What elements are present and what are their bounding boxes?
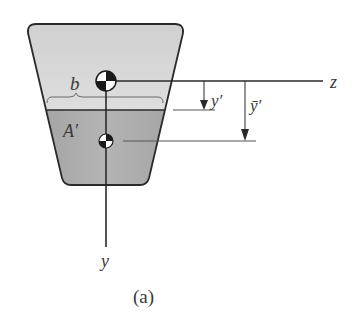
area-centroid-icon — [99, 134, 113, 148]
y-axis-label: y — [99, 251, 109, 271]
cross-section-shape — [20, 20, 190, 190]
area-a-prime-region — [20, 110, 190, 190]
y-prime-arrowhead-icon — [200, 100, 208, 110]
y-prime-label: y′ — [209, 91, 223, 110]
partial-area-label: A′ — [62, 121, 79, 141]
y-bar-prime-arrowhead-icon — [241, 129, 249, 141]
z-axis-label: z — [329, 72, 337, 92]
width-label: b — [70, 73, 80, 94]
cross-section-diagram: b A′ y′ ȳ′ z y (a) — [0, 0, 361, 324]
section-centroid-icon — [96, 71, 116, 91]
y-bar-prime-label: ȳ′ — [248, 96, 262, 115]
figure-caption: (a) — [133, 286, 154, 308]
